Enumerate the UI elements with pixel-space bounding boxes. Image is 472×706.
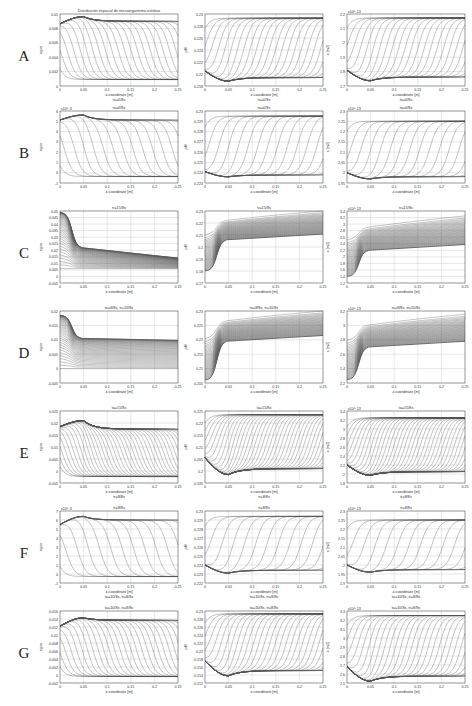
y-tick-label: 2.1	[340, 546, 345, 550]
x-axis-label: z-coordinate [m]	[392, 390, 419, 394]
chart-f-2: 0.2220.2230.2240.2250.2260.2270.2280.229…	[183, 499, 329, 603]
y-tick-label: 0.002	[49, 70, 58, 74]
y-tick-label: 1.7	[340, 85, 345, 89]
y-tick-label: 0.205	[194, 458, 203, 462]
y-tick-label: 0.005	[49, 353, 58, 357]
x-tick-label: 0.2	[439, 385, 444, 389]
x-tick-label: 0	[346, 385, 348, 389]
y-tick-label: 0.224	[194, 49, 203, 53]
y-tick-label: 0	[56, 470, 58, 474]
x-tick-label: 0.05	[225, 585, 232, 589]
x-tick-label: 0.05	[367, 485, 374, 489]
y-tick-label: 0.223	[194, 182, 203, 186]
y-tick-label: 2.4	[340, 242, 345, 246]
x-tick-label: 0.05	[80, 285, 87, 289]
series	[60, 421, 178, 477]
y-tick-label: 0.19	[196, 258, 203, 262]
chart-e-2: 0.1950.20.2050.210.2150.220.22500.050.10…	[183, 399, 329, 503]
y-axis-label: agua	[39, 442, 43, 451]
y-axis-label: pH	[184, 47, 188, 52]
x-tick-label: 0.15	[127, 385, 134, 389]
y-tick-label: 2.3	[340, 510, 345, 514]
grid	[347, 14, 465, 86]
y-tick-label: 0.02	[51, 422, 58, 426]
y-tick-label: 0.222	[194, 582, 203, 586]
x-tick-label: 0.15	[272, 585, 279, 589]
y-tick-label: 0.025	[49, 242, 58, 246]
chart-title: ta=10/8s, tr=8/8s	[392, 606, 421, 610]
x-tick-label: 0.2	[297, 585, 302, 589]
x-axis-label: z-coordinate [m]	[105, 390, 132, 394]
y-tick-label: 0.226	[194, 626, 203, 630]
x-axis-label: z-coordinate [m]	[105, 690, 132, 694]
x-tick-label: 0.25	[462, 185, 469, 189]
x-axis-label: z-coordinate [m]	[105, 290, 132, 294]
y-tick-label: 0.005	[49, 458, 58, 462]
x-tick-label: 0.2	[439, 285, 444, 289]
x-tick-label: 0.15	[414, 285, 421, 289]
series	[60, 516, 178, 576]
y-tick-label: 1.95	[338, 573, 345, 577]
x-tick-label: 0.2	[152, 385, 157, 389]
x-tick-label: 0.2	[439, 485, 444, 489]
y-tick-label: 0.22	[196, 422, 203, 426]
y-axis-label: s [m2]	[326, 45, 330, 55]
y-tick-label: 2.8	[340, 338, 345, 342]
x-axis-label: z-coordinate [m]	[250, 190, 277, 194]
y-tick-label: 0.225	[194, 161, 203, 165]
x-tick-label: 0.25	[175, 685, 182, 689]
y-tick-label: 3.2	[340, 619, 345, 623]
chart-title: tr=15/8s	[112, 206, 126, 210]
row-label-e: E	[14, 445, 34, 462]
y-tick-label: 2.8	[340, 655, 345, 659]
y-tick-label: 0	[56, 573, 58, 577]
x-tick-label: 0.2	[297, 685, 302, 689]
y-tick-label: 0.02	[51, 310, 58, 314]
chart-b-3: 1.9522.052.12.152.22.252.300.050.10.150.…	[325, 99, 471, 203]
grid	[205, 111, 323, 183]
y-tick-label: 0.222	[194, 61, 203, 65]
y-tick-label: 2	[56, 151, 58, 155]
x-axis-label: z-coordinate [m]	[392, 190, 419, 194]
chart-g-3: 2.52.62.72.82.933.13.23.300.050.10.150.2…	[325, 599, 471, 703]
y-tick-label: 2.4	[340, 455, 345, 459]
x-tick-label: 0.2	[152, 685, 157, 689]
x-tick-label: 0.1	[250, 385, 255, 389]
x-tick-label: 0.1	[392, 88, 397, 92]
y-tick-label: -0.002	[48, 682, 58, 686]
y-tick-label: 0	[56, 85, 58, 89]
y-tick-label: 2.2	[340, 249, 345, 253]
y-tick-label: 3.4	[340, 410, 345, 414]
y-tick-label: 0.228	[194, 130, 203, 134]
y-exponent: x10^-13	[348, 607, 361, 611]
series	[205, 18, 323, 81]
chart-title: tr=15/8s	[257, 206, 271, 210]
y-tick-label: 0	[56, 275, 58, 279]
chart-b-1: -1012345600.050.10.150.20.25x10^-3ta=0/8…	[38, 99, 184, 203]
x-tick-label: 0.15	[414, 585, 421, 589]
y-tick-label: 2.6	[340, 236, 345, 240]
y-tick-label: 2.25	[338, 120, 345, 124]
y-tick-label: -1	[55, 182, 58, 186]
y-tick-label: 0.035	[49, 229, 58, 233]
chart-g-2: 0.2120.2140.2160.2180.220.2220.2240.2260…	[183, 599, 329, 703]
x-tick-label: 0.1	[250, 88, 255, 92]
chart-title: ta=10/8s, tr=8/8s	[250, 606, 279, 610]
series	[205, 211, 323, 271]
x-tick-label: 0.2	[152, 185, 157, 189]
series	[205, 516, 323, 573]
x-tick-label: 0.05	[367, 585, 374, 589]
y-tick-label: 0.218	[194, 658, 203, 662]
y-exponent: x10^-13	[348, 407, 361, 411]
chart-title: ta=0/8s	[258, 106, 271, 110]
y-tick-label: 1	[56, 564, 58, 568]
y-exponent: x10^-13	[348, 107, 361, 111]
x-tick-label: 0.1	[250, 685, 255, 689]
y-tick-label: 0.225	[194, 555, 203, 559]
x-axis-label: z-coordinate [m]	[392, 490, 419, 494]
y-tick-label: 3	[343, 223, 345, 227]
x-tick-label: 0.15	[272, 285, 279, 289]
y-axis-label: s [m2]	[326, 142, 330, 152]
x-tick-label: 0.2	[152, 285, 157, 289]
x-tick-label: 0	[346, 485, 348, 489]
